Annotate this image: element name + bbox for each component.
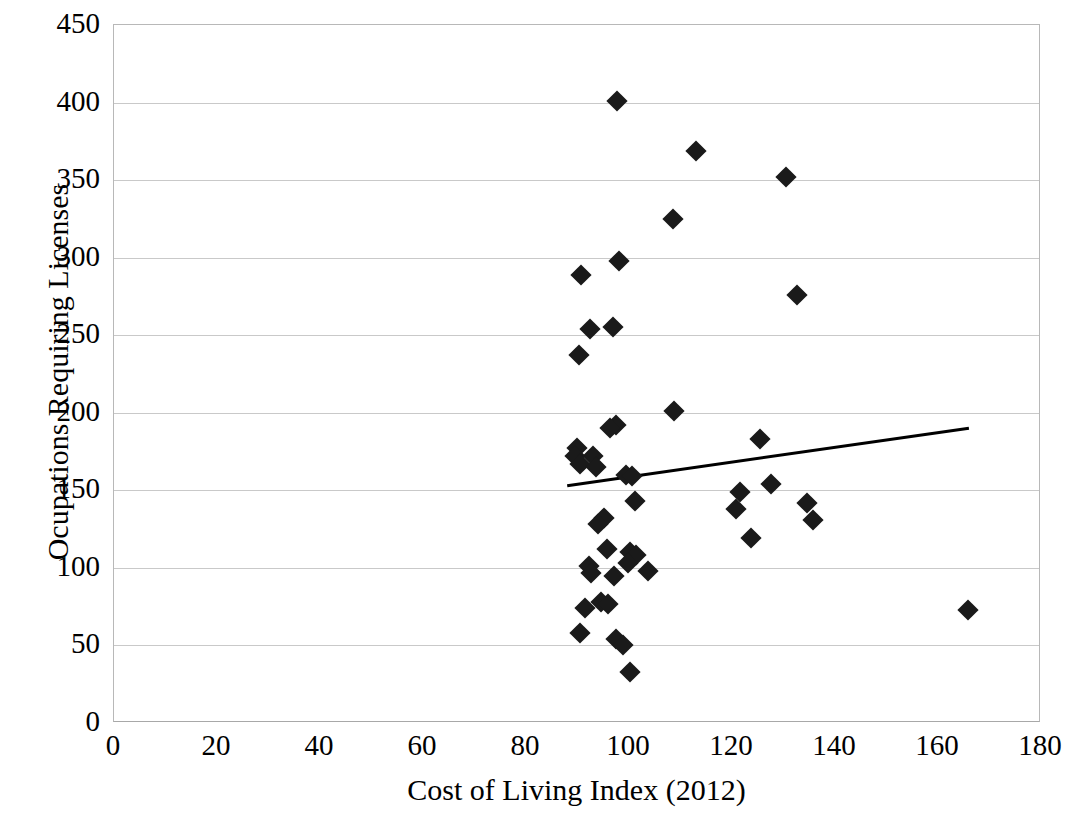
gridline [114,103,1039,104]
data-point [624,491,645,512]
data-point [760,474,781,495]
data-point [579,318,600,339]
data-point [775,166,796,187]
gridline [114,413,1039,414]
gridline [114,335,1039,336]
data-point [570,264,591,285]
data-point [664,401,685,422]
y-tick-label: 400 [10,87,100,116]
data-point [725,498,746,519]
data-point [608,250,629,271]
data-point [787,284,808,305]
data-point [958,599,979,620]
x-tick-label: 120 [686,731,776,760]
data-point [662,208,683,229]
data-point [685,140,706,161]
x-tick-label: 100 [583,731,673,760]
scatter-chart-figure: Ocupations Requiring Licenses 0501001502… [0,0,1083,813]
x-axis-tick-labels: 020406080100120140160180 [0,731,1083,771]
y-tick-label: 300 [10,242,100,271]
data-point [606,90,627,111]
data-point [730,481,751,502]
data-point [569,622,590,643]
x-tick-label: 180 [995,731,1083,760]
x-tick-label: 60 [377,731,467,760]
trendline [114,25,1041,723]
data-point [596,539,617,560]
x-tick-label: 40 [274,731,364,760]
x-tick-label: 160 [892,731,982,760]
gridline [114,490,1039,491]
data-point [637,560,658,581]
gridline [114,180,1039,181]
gridline [114,568,1039,569]
data-point [750,429,771,450]
y-tick-label: 250 [10,319,100,348]
y-tick-label: 200 [10,397,100,426]
x-axis-title: Cost of Living Index (2012) [113,773,1040,807]
y-axis-tick-labels: 050100150200250300350400450 [0,0,100,813]
y-tick-label: 100 [10,552,100,581]
x-tick-label: 20 [171,731,261,760]
x-tick-label: 80 [480,731,570,760]
y-tick-label: 50 [10,629,100,658]
plot-area [113,24,1040,722]
y-tick-label: 150 [10,474,100,503]
y-tick-label: 450 [10,9,100,38]
gridline [114,645,1039,646]
x-tick-label: 140 [789,731,879,760]
x-tick-label: 0 [68,731,158,760]
data-point [740,528,761,549]
data-point [619,661,640,682]
data-point [568,345,589,366]
gridline [114,258,1039,259]
y-tick-label: 350 [10,164,100,193]
